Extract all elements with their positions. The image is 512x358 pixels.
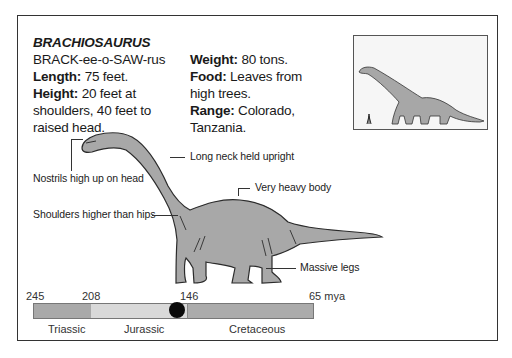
annotation-neck: Long neck held upright bbox=[190, 150, 294, 162]
leader-shoulders bbox=[152, 215, 178, 216]
annotation-legs: Massive legs bbox=[300, 261, 360, 273]
leader-body bbox=[238, 188, 239, 196]
time-marker-dot bbox=[169, 302, 185, 318]
period-triassic-label: Triassic bbox=[48, 323, 85, 335]
tick-65: 65 mya bbox=[309, 290, 345, 302]
period-jurassic-label: Jurassic bbox=[124, 323, 164, 335]
period-cretaceous-bar bbox=[187, 303, 314, 319]
leader-neck bbox=[170, 157, 185, 158]
annotation-body: Very heavy body bbox=[255, 181, 331, 193]
tick-245: 245 bbox=[26, 290, 44, 302]
annotation-shoulders: Shoulders higher than hips bbox=[33, 208, 155, 220]
period-triassic-bar bbox=[33, 303, 91, 319]
leader-nostrils-h bbox=[71, 139, 83, 140]
leader-body-h bbox=[238, 188, 250, 189]
tick-146: 146 bbox=[180, 290, 198, 302]
period-cretaceous-label: Cretaceous bbox=[229, 323, 285, 335]
leader-legs bbox=[266, 268, 296, 269]
tick-208: 208 bbox=[82, 290, 100, 302]
leader-nostrils bbox=[71, 139, 72, 171]
annotation-nostrils: Nostrils high up on head bbox=[33, 172, 144, 184]
